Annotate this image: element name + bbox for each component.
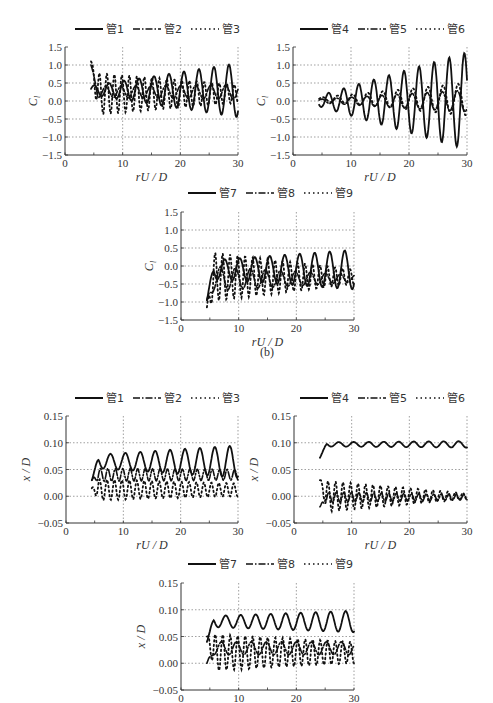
y-tick-label: −1.0: [42, 131, 62, 143]
y-tick-label: 1.5: [164, 206, 178, 218]
y-tick-label: 0.15: [44, 410, 64, 422]
y-tick-label: 1.5: [276, 41, 290, 53]
series-line-1: [207, 611, 354, 642]
legend: 管7管8管9: [188, 186, 353, 200]
y-tick-label: 0.0: [164, 260, 178, 272]
x-tick-label: 20: [175, 525, 187, 537]
x-tick-label: 30: [233, 157, 245, 169]
y-tick-label: 0.15: [159, 577, 179, 589]
y-tick-label: 0.10: [159, 604, 179, 616]
y-axis-label: Cl: [142, 260, 158, 271]
y-axis-label: x / D: [247, 458, 261, 483]
legend: 管1管2管3: [75, 22, 240, 36]
legend-label: 管7: [219, 557, 237, 571]
x-tick-label: 0: [290, 157, 296, 169]
y-tick-label: −1.0: [270, 131, 290, 143]
y-tick-label: −1.5: [42, 149, 62, 161]
x-tick-label: 10: [346, 525, 358, 537]
y-tick-label: −0.05: [153, 684, 179, 696]
series-line-3: [92, 479, 238, 500]
panel-cl-pipes-4-6: 1.51.00.50.0−0.5−1.0−1.50102030rU / DCl管…: [254, 22, 473, 184]
y-axis-label: x / D: [134, 625, 148, 650]
y-tick-label: 0.0: [276, 95, 290, 107]
y-tick-label: −0.5: [42, 113, 62, 125]
x-tick-label: 0: [63, 525, 69, 537]
legend-label: 管6: [447, 22, 465, 36]
legend: 管4管5管6: [300, 22, 465, 36]
legend-label: 管1: [106, 391, 124, 405]
x-axis-label: rU / D: [136, 170, 168, 184]
y-tick-label: 1.0: [276, 59, 290, 71]
panel-xd-pipes-4-6: 0.150.100.050.00−0.050102030rU / Dx / D管…: [247, 391, 473, 552]
y-tick-label: 0.15: [272, 410, 292, 422]
y-tick-label: 0.0: [48, 95, 62, 107]
x-tick-label: 20: [404, 525, 416, 537]
x-tick-label: 30: [462, 157, 474, 169]
figure: 1.51.00.50.0−0.5−1.0−1.50102030rU / DCl管…: [0, 0, 493, 703]
x-tick-label: 30: [349, 692, 361, 703]
y-tick-label: 0.5: [164, 242, 178, 254]
series-line-3: [91, 61, 238, 113]
y-tick-label: 0.05: [159, 631, 179, 643]
x-tick-label: 20: [291, 322, 303, 334]
x-axis-label: rU / D: [136, 538, 168, 552]
legend: 管7管8管9: [188, 557, 353, 571]
legend-label: 管8: [277, 557, 295, 571]
grid: [65, 47, 238, 155]
x-tick-label: 10: [346, 157, 358, 169]
y-tick-label: 0.05: [44, 464, 64, 476]
panel-xd-pipes-7-9: 0.150.100.050.00−0.050102030x / D管7管8管9: [134, 557, 360, 703]
y-tick-label: 0.10: [272, 437, 292, 449]
y-tick-label: 0.00: [272, 490, 292, 502]
legend-label: 管3: [222, 391, 240, 405]
legend: 管4管5管6: [300, 391, 465, 405]
x-tick-label: 0: [62, 157, 68, 169]
y-tick-label: −0.05: [266, 517, 292, 529]
legend-label: 管9: [335, 557, 353, 571]
legend-label: 管1: [106, 22, 124, 36]
x-tick-label: 10: [118, 525, 130, 537]
legend-label: 管2: [164, 22, 182, 36]
y-tick-label: −1.5: [158, 314, 178, 326]
legend-label: 管4: [331, 22, 349, 36]
y-tick-label: −0.5: [270, 113, 290, 125]
x-tick-label: 0: [178, 322, 184, 334]
x-tick-label: 30: [349, 322, 361, 334]
y-tick-label: −0.05: [38, 517, 64, 529]
x-tick-label: 30: [462, 525, 474, 537]
y-tick-label: 1.0: [164, 224, 178, 236]
legend-label: 管7: [219, 186, 237, 200]
x-tick-label: 10: [117, 157, 129, 169]
y-tick-label: −1.0: [158, 296, 178, 308]
y-tick-label: 0.00: [44, 490, 64, 502]
legend-label: 管3: [222, 22, 240, 36]
y-tick-label: 0.10: [44, 437, 64, 449]
figure-caption: (b): [260, 345, 274, 359]
x-tick-label: 0: [291, 525, 297, 537]
x-axis-label: rU / D: [364, 170, 396, 184]
y-tick-label: 0.00: [159, 657, 179, 669]
series-line-1: [320, 441, 467, 458]
panel-cl-pipes-7-9: 1.51.00.50.0−0.5−1.0−1.50102030rU / DCl管…: [142, 186, 360, 349]
y-tick-label: 1.0: [48, 59, 62, 71]
x-tick-label: 10: [233, 692, 245, 703]
y-axis-label: x / D: [19, 458, 33, 483]
legend-label: 管5: [389, 22, 407, 36]
legend-label: 管9: [335, 186, 353, 200]
x-axis-label: rU / D: [365, 538, 397, 552]
x-tick-label: 0: [178, 692, 184, 703]
x-tick-label: 30: [233, 525, 245, 537]
x-tick-label: 20: [404, 157, 416, 169]
x-tick-label: 20: [175, 157, 187, 169]
x-tick-label: 20: [291, 692, 303, 703]
y-tick-label: −1.5: [270, 149, 290, 161]
legend-label: 管8: [277, 186, 295, 200]
y-tick-label: 0.05: [272, 464, 292, 476]
legend-label: 管5: [389, 391, 407, 405]
panel-xd-pipes-1-3: 0.150.100.050.00−0.050102030rU / Dx / D管…: [19, 391, 244, 552]
legend-label: 管4: [331, 391, 349, 405]
legend-label: 管6: [447, 391, 465, 405]
y-tick-label: −0.5: [158, 278, 178, 290]
panel-cl-pipes-1-3: 1.51.00.50.0−0.5−1.0−1.50102030rU / DCl管…: [26, 22, 244, 184]
legend: 管1管2管3: [75, 391, 240, 405]
